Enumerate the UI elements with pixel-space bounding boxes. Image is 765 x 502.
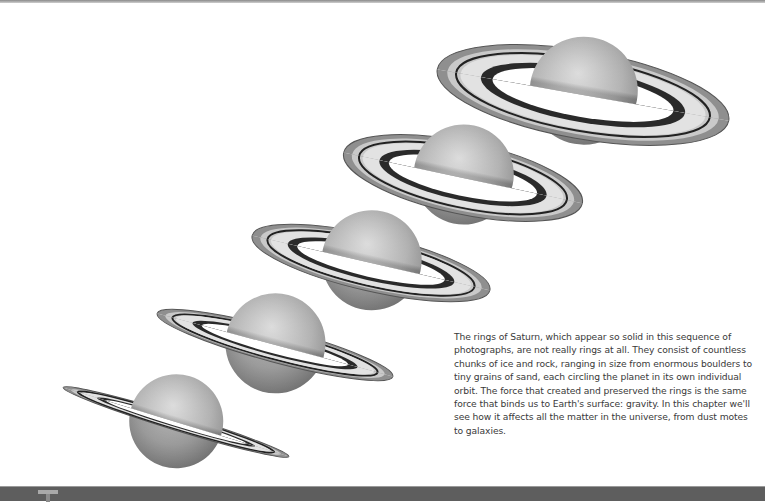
drop-cap-letter-t <box>38 490 58 501</box>
figure-caption: The rings of Saturn, which appear so sol… <box>454 330 759 437</box>
chapter-footer-band <box>0 486 765 501</box>
drop-cap-stem <box>46 494 50 502</box>
